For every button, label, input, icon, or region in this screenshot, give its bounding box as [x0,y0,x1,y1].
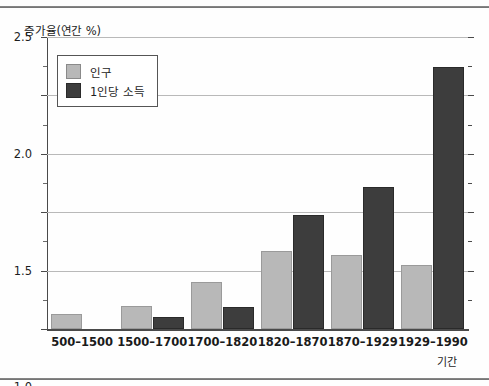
x-axis-tick-label: 1929–1990 [398,335,468,349]
x-axis-tick-label: 500–1500 [51,335,113,349]
x-axis-tick-label: 1500–1700 [117,335,187,349]
x-axis-tick-label: 1700–1820 [188,335,258,349]
x-axis-tick-label: 1820–1870 [258,335,328,349]
y-axis-minor-tick [43,125,47,126]
y-axis-tick-right [468,95,474,96]
bar [121,306,152,329]
legend-item: 1인당 소득 [66,81,145,100]
y-axis-minor-tick [43,183,47,184]
dark-gray-swatch-icon [66,83,81,98]
y-axis-tick: 1.0 [41,212,47,213]
y-axis-tick-right [468,154,474,155]
bar [363,187,394,329]
bar [191,282,222,329]
bar [293,215,324,329]
bar [261,251,292,329]
y-axis-minor-tick-right [468,183,472,184]
y-axis-minor-tick [43,66,47,67]
bar-chart: 증가율(연간 %) 기간 0.00.51.01.52.02.5500–15001… [0,8,489,378]
legend-item-label: 1인당 소득 [90,83,145,99]
bar-group [191,37,254,329]
bar [331,255,362,329]
bar [51,314,82,329]
y-axis-tick-label: 2.5 [14,30,32,44]
bar [401,265,432,329]
y-axis-tick-label: 2.0 [14,147,32,161]
y-axis-tick: 2.5 [41,37,47,38]
bar-group [401,37,464,329]
bar-group [261,37,324,329]
y-axis-tick-right [468,37,474,38]
y-axis-tick-right [468,271,474,272]
y-axis-minor-tick [43,300,47,301]
y-axis-tick-label: 1.5 [14,264,32,278]
y-axis-minor-tick-right [468,66,472,67]
y-axis-tick: 0.5 [41,271,47,272]
y-axis-label: 증가율(연간 %) [24,22,101,38]
x-axis-tick-label: 1870–1929 [328,335,398,349]
chart-legend: 인구 1인당 소득 [57,55,158,107]
y-axis-minor-tick [43,241,47,242]
legend-item: 인구 [66,62,145,81]
y-axis-tick: 0.0 [41,329,47,330]
y-axis-tick-label: 1.0 [14,380,32,386]
bar [223,307,254,329]
bar [433,67,464,329]
y-axis-tick: 2.0 [41,95,47,96]
light-gray-swatch-icon [66,64,81,79]
x-axis-line [47,329,469,331]
bottom-rule [0,378,489,380]
bar [153,317,184,329]
y-axis-tick-right [468,212,474,213]
y-axis-tick: 1.5 [41,154,47,155]
y-axis-minor-tick-right [468,300,472,301]
bar-group [331,37,394,329]
y-axis-minor-tick-right [468,125,472,126]
y-axis-minor-tick-right [468,241,472,242]
x-axis-label: 기간 [437,353,457,369]
figure-page: 증가율(연간 %) 기간 0.00.51.01.52.02.5500–15001… [0,0,489,386]
legend-item-label: 인구 [90,64,112,80]
